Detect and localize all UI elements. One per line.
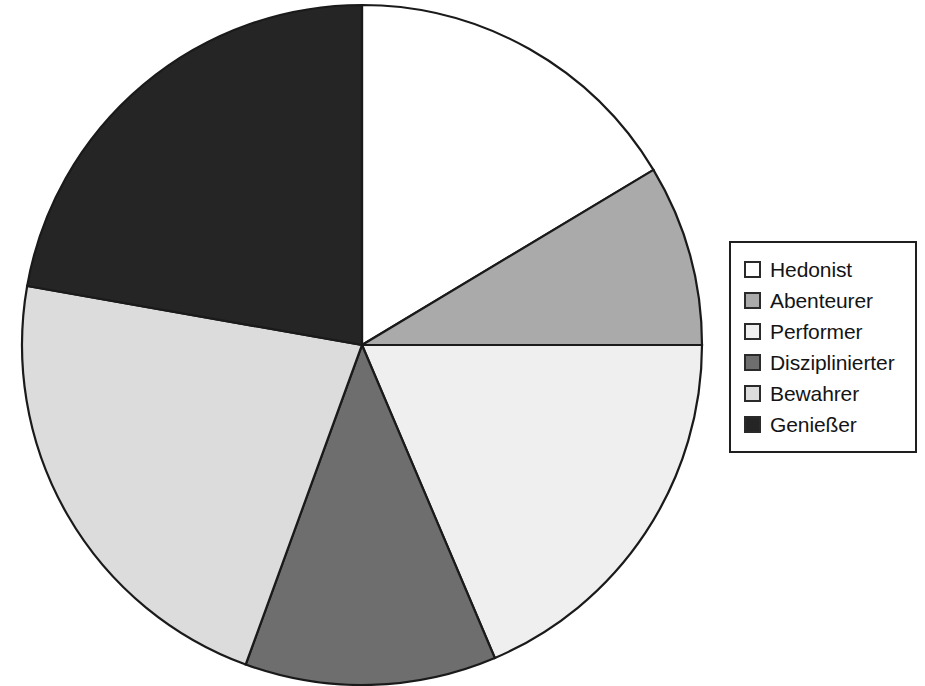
legend-label-hedonist: Hedonist bbox=[770, 259, 852, 280]
legend-item-disziplinierter[interactable]: Disziplinierter bbox=[744, 347, 905, 378]
pie-chart-figure: Hedonist Abenteurer Performer Disziplini… bbox=[0, 0, 925, 686]
legend-swatch-icon-abenteurer bbox=[744, 292, 761, 309]
pie-slice-group bbox=[22, 5, 702, 685]
legend-item-performer[interactable]: Performer bbox=[744, 316, 905, 347]
legend-label-performer: Performer bbox=[770, 321, 862, 342]
legend-item-hedonist[interactable]: Hedonist bbox=[744, 254, 905, 285]
legend-label-bewahrer: Bewahrer bbox=[770, 383, 859, 404]
legend-swatch-icon-geniesser bbox=[744, 416, 761, 433]
legend-item-geniesser[interactable]: Genießer bbox=[744, 409, 905, 440]
legend-item-bewahrer[interactable]: Bewahrer bbox=[744, 378, 905, 409]
legend-label-geniesser: Genießer bbox=[770, 414, 857, 435]
legend-swatch-icon-hedonist bbox=[744, 261, 761, 278]
legend-item-abenteurer[interactable]: Abenteurer bbox=[744, 285, 905, 316]
legend-label-disziplinierter: Disziplinierter bbox=[770, 352, 895, 373]
legend-swatch-icon-performer bbox=[744, 323, 761, 340]
legend-swatch-icon-bewahrer bbox=[744, 385, 761, 402]
legend-swatch-icon-disziplinierter bbox=[744, 354, 761, 371]
pie-slice-geniesser[interactable] bbox=[27, 5, 362, 345]
chart-legend: Hedonist Abenteurer Performer Disziplini… bbox=[729, 241, 917, 453]
legend-label-abenteurer: Abenteurer bbox=[770, 290, 873, 311]
